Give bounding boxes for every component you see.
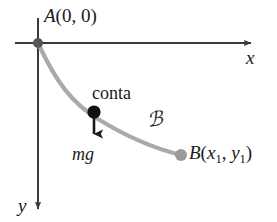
label-point-b-name: B	[189, 142, 201, 163]
label-point-b-sep: ,	[222, 142, 232, 163]
label-particle: conta	[92, 84, 131, 102]
label-point-a: A(0, 0)	[44, 6, 97, 25]
endpoint-dot-b	[175, 149, 187, 161]
particle-dot	[87, 105, 100, 118]
label-point-a-name: A	[44, 5, 56, 26]
label-point-b: B(x1, y1)	[189, 143, 252, 165]
label-force-mg: mg	[72, 145, 94, 163]
label-curve-c: ℬ	[146, 108, 165, 130]
figure-canvas	[0, 0, 277, 222]
label-point-a-coords: (0, 0)	[56, 5, 97, 26]
label-axis-x: x	[246, 48, 254, 67]
brachistochrone-figure: A(0, 0) x y conta mg ℬ B(x1, y1)	[0, 0, 277, 222]
label-point-b-y: y	[231, 142, 239, 163]
origin-point-a	[33, 38, 43, 48]
label-axis-y: y	[18, 196, 26, 215]
label-point-b-close: )	[246, 142, 252, 163]
